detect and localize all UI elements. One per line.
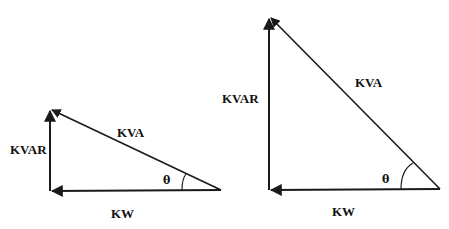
triangle-large: KVAR KVA KW θ [222, 18, 440, 219]
power-triangle-diagram: KVAR KVA KW θ KVAR KVA KW θ [0, 0, 449, 229]
theta-label-small: θ [163, 174, 170, 187]
kw-vector-large [271, 189, 440, 190]
angle-arc-small [182, 174, 186, 190]
kvar-label-large: KVAR [222, 91, 259, 106]
kva-vector-small [52, 110, 221, 190]
kva-vector-large [271, 18, 440, 189]
triangle-small: KVAR KVA KW θ [10, 110, 221, 221]
theta-label-large: θ [382, 173, 389, 186]
kva-label-large: KVA [355, 75, 383, 90]
angle-arc-large [401, 163, 413, 189]
kw-label-large: KW [332, 204, 355, 219]
kw-label-small: KW [111, 206, 134, 221]
kvar-label-small: KVAR [10, 142, 47, 157]
kva-label-small: KVA [117, 125, 145, 140]
kw-vector-small [52, 190, 221, 191]
